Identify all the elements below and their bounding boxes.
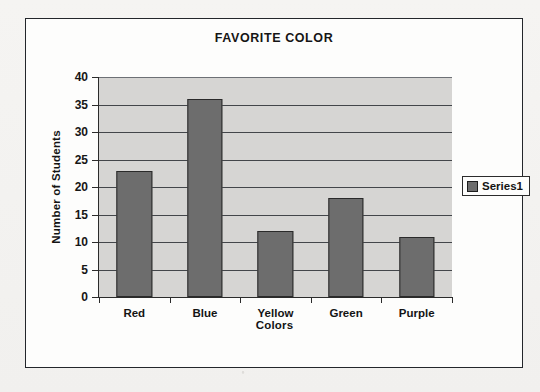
y-axis-tick-label: 40: [75, 70, 88, 84]
x-axis-tick: [381, 297, 382, 303]
y-axis-title: Number of Students: [50, 130, 62, 244]
x-axis-tick: [170, 297, 171, 303]
y-axis-tick-label: 30: [75, 125, 88, 139]
y-axis-tick: [92, 77, 99, 78]
y-axis-tick-label: 20: [75, 180, 88, 194]
y-axis-tick-label: 10: [75, 235, 88, 249]
y-axis-tick: [92, 105, 99, 106]
x-axis-tick-label: Purple: [381, 307, 452, 319]
bar-purple: [399, 237, 434, 298]
bar-yellow: [258, 231, 293, 297]
y-axis-tick-label: 5: [81, 263, 88, 277]
x-axis-tick-label: Green: [311, 307, 382, 319]
bar-slot: Green: [311, 77, 382, 297]
bar-slot: Yellow: [240, 77, 311, 297]
bar-red: [117, 171, 152, 298]
y-axis-tick-label: 25: [75, 153, 88, 167]
chart-title: FAVORITE COLOR: [26, 31, 522, 45]
x-axis-tick-label: Red: [99, 307, 170, 319]
x-axis-tick-label: Yellow: [240, 307, 311, 319]
y-axis-tick-label: 15: [75, 208, 88, 222]
bar-slot: Purple: [381, 77, 452, 297]
legend-label-series1: Series1: [482, 180, 523, 192]
bar-series: RedBlueYellowGreenPurple: [99, 77, 452, 297]
bar-slot: Red: [99, 77, 170, 297]
y-axis-tick: [92, 187, 99, 188]
y-axis-tick-label: 35: [75, 98, 88, 112]
bar-blue: [187, 99, 222, 297]
y-axis-tick: [92, 160, 99, 161]
bar-slot: Blue: [170, 77, 241, 297]
x-axis-tick: [311, 297, 312, 303]
y-axis-tick: [92, 215, 99, 216]
x-axis-tick: [99, 297, 100, 303]
y-axis-tick-label: 0: [81, 290, 88, 304]
y-axis-tick: [92, 297, 99, 298]
legend-swatch-series1: [467, 181, 478, 192]
x-axis-tick: [240, 297, 241, 303]
bar-green: [328, 198, 363, 297]
x-axis-tick-label: Blue: [170, 307, 241, 319]
y-axis-tick: [92, 242, 99, 243]
x-axis-tick: [452, 297, 453, 303]
chart-frame: FAVORITE COLOR Number of Students 051015…: [25, 18, 523, 368]
plot-area: 0510152025303540 RedBlueYellowGreenPurpl…: [98, 77, 452, 298]
y-axis-tick: [92, 132, 99, 133]
x-axis-title: Colors: [98, 319, 451, 331]
legend: Series1: [462, 176, 530, 196]
y-axis-tick: [92, 270, 99, 271]
